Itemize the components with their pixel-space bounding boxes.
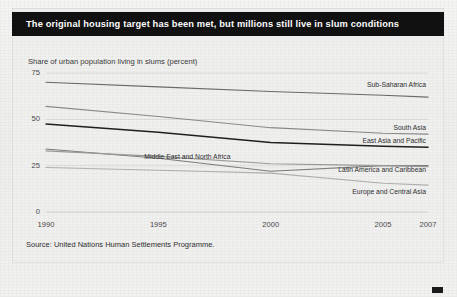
series-label: Middle East and North Africa (144, 153, 230, 160)
source-note: Source: United Nations Human Settlements… (26, 240, 214, 249)
series-label: South Asia (394, 124, 427, 131)
chart-svg (0, 0, 457, 297)
y-tick-label: 50 (20, 114, 40, 123)
x-tick-label: 2000 (251, 220, 291, 229)
series-line (46, 106, 428, 134)
series-label: Sub-Saharan Africa (367, 81, 426, 88)
x-tick-label: 2007 (408, 220, 448, 229)
series-label: Europe and Central Asia (352, 188, 426, 195)
x-tick-label: 1995 (138, 220, 178, 229)
figure-container: The original housing target has been met… (0, 0, 457, 297)
x-tick-label: 1990 (26, 220, 66, 229)
series-label: East Asia and Pacific (363, 137, 426, 144)
series-label: Latin America and Caribbean (338, 166, 426, 173)
series-line (46, 151, 428, 167)
x-tick-label: 2005 (363, 220, 403, 229)
series-line (46, 124, 428, 147)
y-tick-label: 75 (20, 68, 40, 77)
y-tick-label: 25 (20, 161, 40, 170)
corner-mark (432, 287, 443, 293)
y-tick-label: 0 (20, 207, 40, 216)
